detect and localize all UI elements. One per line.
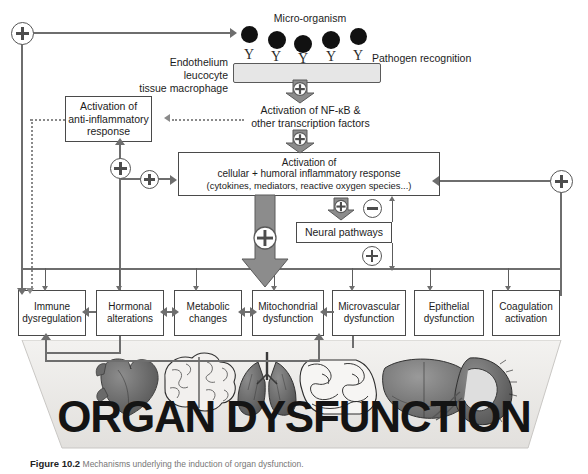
long-feedback-bus — [46, 360, 320, 362]
organ-box-label-2: Metabolic changes — [187, 301, 230, 325]
plus-sign-right — [550, 170, 573, 193]
bus-drop-arrow-5 — [349, 286, 355, 291]
inflammatory-input-arrowhead — [170, 175, 177, 185]
micro-organism-5 — [350, 28, 367, 45]
left-top-feedback-line — [30, 32, 232, 34]
organ-box-epithelial-dysfunction: Epithelial dysfunction — [414, 290, 484, 336]
link-metabolic-mitochondrial-arrow-l — [238, 307, 245, 317]
nfkb-to-anti-inflammatory-dotted-link — [172, 119, 244, 121]
inflammatory-line-3: (cytokines, mediators, reactive oxygen s… — [207, 180, 412, 191]
nfkb-activation-label: Activation of NF-κB & other transcriptio… — [228, 104, 393, 130]
bus-drop-arrow-3 — [193, 286, 199, 291]
anti-inflammatory-response-box: Activation of anti-inflammatory response — [65, 96, 152, 142]
organ-box-label-0: Immune dysregulation — [22, 301, 81, 325]
receptor-5: Y — [353, 49, 363, 63]
organ-box-label-3: Mitochondrial dysfunction — [258, 301, 317, 325]
link-mitochondrial-microvascular-arrow-l — [320, 307, 327, 317]
receptor-2: Y — [271, 50, 281, 64]
organ-box-label-6: Coagulation activation — [499, 301, 552, 325]
anti-inflammatory-out-dotted-v — [31, 119, 33, 291]
figure-caption-label: Figure 10.2 — [30, 458, 80, 469]
micro-organism-4 — [322, 31, 340, 49]
bus-drop-arrow-6 — [427, 286, 433, 291]
cell-types-label: Endothelium leucocyte tissue macrophage — [128, 56, 228, 94]
micro-organism-label: Micro-organism — [240, 12, 380, 25]
left-outer-feedback-line — [21, 36, 23, 294]
pathogen-recognition-label: Pathogen recognition — [372, 52, 512, 65]
bus-drop-2 — [119, 268, 120, 288]
figure-root: Micro-organism Y Y Y Y Y Pathogen recogn… — [0, 0, 588, 474]
bus-drop-arrow-1 — [42, 286, 48, 291]
organ-box-immune-dysregulation: Immune dysregulation — [18, 290, 86, 336]
microvascular-feedback-stub — [352, 336, 354, 348]
figure-caption: Figure 10.2 Mechanisms underlying the in… — [30, 458, 570, 469]
link-metabolic-mitochondrial-arrow-r — [250, 307, 257, 317]
long-feedback-mito-arrowhead — [314, 333, 324, 340]
bus-drop-6 — [430, 268, 431, 288]
neural-plus-output-arrowhead — [389, 266, 395, 271]
neural-pathways-label: Neural pathways — [305, 226, 383, 238]
right-outer-feedback-arrowhead — [432, 176, 439, 186]
anti-inflammatory-out-arrowhead — [26, 288, 34, 294]
receptor-1: Y — [244, 48, 254, 62]
left-top-feedback-arrowhead — [230, 28, 237, 38]
neural-minus-feedback-arrowhead — [389, 196, 395, 201]
bus-drop-arrow-7 — [505, 286, 511, 291]
anti-inflammatory-response-label: Activation of anti-inflammatory response — [68, 100, 149, 137]
inflammatory-line-1: Activation of — [282, 157, 336, 169]
organ-box-hormonal-alterations: Hormonal alterations — [96, 290, 164, 336]
neural-minus-feedback-line — [392, 200, 393, 222]
minus-sign-neural — [363, 199, 382, 218]
organ-box-coagulation-activation: Coagulation activation — [492, 290, 560, 336]
organ-box-label-5: Epithelial dysfunction — [424, 301, 475, 325]
inflammatory-line-2: cellular + humoral inflammatory response — [217, 168, 400, 180]
bus-drop-5 — [352, 268, 353, 288]
activation-arrow-inflammatory — [285, 130, 315, 154]
organ-box-label-1: Hormonal alterations — [107, 301, 153, 325]
nfkb-to-anti-inflammatory-arrowhead — [164, 114, 170, 122]
organ-box-mitochondrial-dysfunction: Mitochondrial dysfunction — [252, 290, 324, 336]
organ-dysfunction-banner: ORGAN DYSFUNCTION — [0, 340, 588, 460]
bus-drop-3 — [196, 268, 197, 288]
hormonal-feedback-arrowhead — [41, 333, 51, 340]
neural-pathways-activation-arrow — [327, 198, 355, 221]
micro-organism-2 — [268, 31, 286, 49]
micro-organism-1 — [241, 26, 258, 43]
inflammatory-response-box: Activation of cellular + humoral inflamm… — [178, 152, 440, 196]
bus-drop-arrow-2 — [116, 286, 122, 291]
plus-sign-inflammatory-input — [140, 170, 159, 189]
anti-inflammatory-input-arrowhead — [115, 138, 125, 145]
hormonal-feedback-across — [46, 352, 121, 354]
link-hormonal-metabolic-arrow-l — [160, 307, 167, 317]
organ-box-microvascular-dysfunction: Microvascular dysfunction — [332, 290, 406, 336]
link-immune-hormonal-arrow-l — [82, 307, 89, 317]
organ-distribution-bus — [21, 268, 561, 270]
receptor-4: Y — [326, 50, 336, 64]
organ-dysfunction-text: ORGAN DYSFUNCTION — [57, 392, 530, 441]
bus-drop-1 — [45, 268, 46, 288]
plus-sign-top-left — [11, 22, 34, 45]
anti-inflammatory-out-dotted-h — [30, 119, 65, 121]
right-outer-feedback-line — [560, 190, 562, 296]
plus-sign-anti-inflammatory — [110, 158, 131, 179]
right-outer-feedback-line-horizontal — [438, 180, 552, 182]
organ-dysfunction-activation-arrow — [241, 195, 289, 289]
neural-pathways-box: Neural pathways — [296, 222, 392, 243]
activation-arrow-nfkb — [285, 80, 315, 104]
long-feedback-left-riser — [45, 352, 47, 362]
organ-box-label-4: Microvascular dysfunction — [338, 301, 400, 325]
organ-box-metabolic-changes: Metabolic changes — [174, 290, 242, 336]
link-hormonal-metabolic-arrow-r — [172, 307, 179, 317]
long-feedback-up-mito — [318, 338, 320, 362]
plus-sign-neural-output — [362, 246, 382, 266]
figure-caption-text: Mechanisms underlying the induction of o… — [83, 459, 304, 469]
bus-drop-7 — [508, 268, 509, 288]
